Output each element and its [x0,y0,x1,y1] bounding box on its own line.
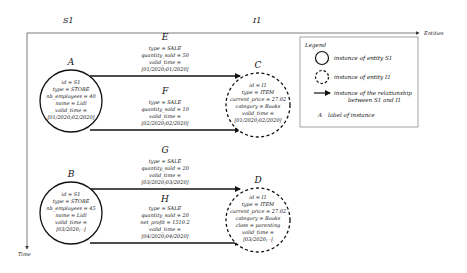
node-d-attr: valid_time = [242,229,274,236]
relationship-e-label: E [161,32,169,42]
relationship-g: G type = SALE quantity_sold = 20 valid_t… [141,145,189,185]
relationship-f-label: F [161,86,169,96]
node-b-attr: type = STORE [53,198,90,205]
legend: Legend instance of entity S1 instance of… [300,37,418,127]
relationship-h-attr: valid_time = [149,226,181,233]
legend-item-i1: instance of entity I1 [334,74,391,81]
node-d-attr: [03/2020; -] [243,236,273,242]
time-axis-label: Time [18,251,31,257]
entities-axis-label: Entities [423,30,444,36]
column-header-i1: I1 [252,16,261,25]
relationship-h-attr: net_profit = 1510.2 [140,219,190,226]
node-a-attr: nb_employees = 40 [46,93,96,100]
node-c-label: C [255,60,262,70]
node-d-attr: type = ITEM [242,201,275,208]
relationship-g-attr: quantity_sold = 20 [141,165,189,172]
node-b-attr: name = Lidl [56,212,87,218]
relationship-f-attr: quantity_sold = 10 [141,106,189,113]
relationship-e-attr: valid_time = [149,59,181,66]
node-b-attr: id = S1 [62,191,81,197]
legend-item-relationship: instance of the relationship [334,90,412,97]
relationship-e-attr: type = SALE [149,45,182,52]
relationship-h-attr: quantity_sold = 20 [141,212,189,219]
node-b-attr: [03/2020; -] [56,226,86,232]
relationship-g-attr: valid_time = [149,172,181,179]
relationship-e-attr: [01/2020;01/2020] [141,66,188,72]
relationship-g-label: G [161,145,168,155]
relationship-e: E type = SALE quantity_sold = 50 valid_t… [141,32,189,72]
node-c-attr: category = Books [236,103,281,110]
legend-item-label: label of instance [328,112,375,119]
node-a-attr: type = STORE [53,86,90,93]
diagram-canvas: Entities Time S1 I1 A B C D id = S1 type… [0,0,467,273]
node-c-attr: id = I1 [249,82,266,88]
node-a-attr: name = Lidl [56,100,87,106]
legend-title: Legend [304,42,327,49]
node-b-attr: valid_time = [55,219,87,226]
legend-item-relationship-line2: between S1 and I1 [348,97,401,103]
relationship-h-attr: type = SALE [149,205,182,212]
legend-item-s1: instance of entity S1 [334,55,392,62]
relationship-f-attr: type = SALE [149,99,182,106]
relationship-f: F type = SALE quantity_sold = 10 valid_t… [141,86,189,126]
node-c-attr: type = ITEM [242,89,275,96]
node-c-attr: current_price = 27.02 [230,96,286,103]
node-a-attr: [01/2020;02/2020] [47,114,94,120]
relationship-e-attr: quantity_sold = 50 [141,52,189,59]
node-a-label: A [67,57,75,67]
relationship-f-attr: [02/2020;02/2020] [141,120,188,126]
legend-label-symbol: A [317,112,322,118]
node-b-label: B [67,169,75,179]
relationship-h: H type = SALE quantity_sold = 20 net_pro… [140,194,190,239]
node-b-attr: nb_employees = 45 [46,205,95,212]
node-a-attr: id = S1 [62,79,81,85]
node-a-attr: valid_time = [55,107,87,114]
relationship-g-attr: [03/2020;03/2020] [141,179,188,185]
node-d-attr: id = I1 [249,194,266,200]
relationship-h-attr: [04/2020;04/2020] [141,233,188,239]
node-d-attr: class = parenting [236,222,281,229]
node-c-attr: valid_time = [242,110,274,117]
node-d-label: D [253,175,261,185]
relationship-h-label: H [160,194,169,204]
node-c-attr: [01/2020;02/2020] [234,117,281,123]
column-header-s1: S1 [63,16,74,25]
relationship-f-attr: valid_time = [149,113,181,120]
node-d-attr: category = Books [236,215,281,222]
node-d-attr: current_price = 27.02 [230,208,286,215]
relationship-g-attr: type = SALE [149,158,182,165]
